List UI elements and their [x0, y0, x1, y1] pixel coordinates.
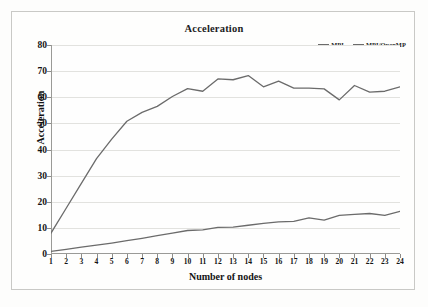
y-tick-label: 10 — [17, 223, 47, 233]
y-axis-title: Acceleration — [35, 58, 46, 178]
chart-title: Acceleration — [12, 23, 416, 34]
series-lines — [51, 45, 400, 254]
x-tick-label: 24 — [390, 257, 410, 266]
y-tick-label: 80 — [17, 40, 47, 50]
series-line-mpi — [51, 211, 400, 251]
y-tick-label: 20 — [17, 197, 47, 207]
plot-area — [51, 45, 400, 254]
x-axis-title: Number of nodes — [51, 271, 400, 282]
series-line-mpi-openmp — [51, 76, 400, 234]
chart-frame: Acceleration MPI MPI/OpenMP 010203040506… — [11, 11, 415, 290]
chart-page: Acceleration MPI MPI/OpenMP 010203040506… — [0, 0, 428, 307]
x-axis-tick-labels: 123456789101112131415161718192021222324 — [51, 257, 400, 271]
